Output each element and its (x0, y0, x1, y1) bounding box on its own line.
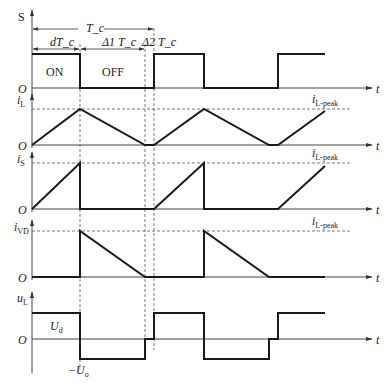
svg-text:O: O (18, 203, 27, 217)
panel-inductor-voltage: uL O t Ud −Uo (17, 291, 380, 379)
svg-text:t: t (376, 333, 380, 347)
waveform-figure: T_c dT_c Δ1 T_c Δ2 T_c S O t ON OFF iL O… (0, 0, 388, 391)
panel-diode-current: iVD O t iL-peak (14, 214, 380, 285)
panel-inductor-current: iL O t iL-peak (17, 92, 380, 153)
ul-axis-label: uL (17, 291, 28, 307)
svg-text:O: O (18, 139, 27, 153)
delta2-label: Δ2 T_c (141, 35, 177, 49)
ivd-axis-label: iVD (14, 220, 29, 236)
on-state-label: ON (46, 65, 64, 79)
period-label: T_c (86, 21, 105, 35)
svg-text:O: O (18, 271, 27, 285)
is-peak-label: iL-peak (312, 146, 338, 162)
timing-guides (80, 28, 154, 370)
time-axis-label: t (376, 82, 380, 96)
period-annotation: T_c dT_c Δ1 T_c Δ2 T_c (33, 21, 177, 49)
inductor-voltage-waveform (32, 313, 325, 359)
svg-text:t: t (376, 139, 380, 153)
on-duration-label: dT_c (50, 35, 75, 49)
off-state-label: OFF (102, 65, 124, 79)
uo-label: −Uo (68, 363, 89, 379)
panel-switch-current: iS O t iL-peak (17, 146, 380, 217)
svg-text:t: t (376, 271, 380, 285)
ivd-peak-label: iL-peak (312, 214, 338, 230)
il-peak-label: iL-peak (312, 92, 338, 108)
is-axis-label: iS (17, 152, 25, 168)
inductor-current-waveform (32, 109, 325, 145)
s-axis-label: S (18, 10, 25, 24)
svg-text:O: O (18, 333, 27, 347)
switch-waveform (32, 54, 325, 88)
ud-label: Ud (50, 319, 63, 335)
svg-text:t: t (376, 203, 380, 217)
panel-switch-signal: S O t ON OFF (18, 10, 380, 96)
diode-current-waveform (32, 231, 325, 277)
switch-current-waveform (32, 163, 325, 209)
delta1-label: Δ1 T_c (101, 35, 137, 49)
